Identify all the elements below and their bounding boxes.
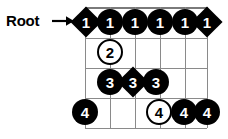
finger-marker-1: 1 [122,9,148,35]
fret-line-4 [85,128,207,129]
finger-marker-1: 1 [73,9,99,35]
finger-number: 3 [129,75,137,90]
finger-number: 1 [203,15,211,30]
finger-number: 1 [156,15,164,30]
finger-marker-1: 1 [97,9,123,35]
finger-marker-4: 4 [194,99,220,125]
finger-marker-4: 4 [146,99,172,125]
finger-number: 1 [131,15,139,30]
finger-number: 4 [203,105,211,120]
finger-number: 3 [106,75,114,90]
finger-number: 1 [181,15,189,30]
finger-number: 1 [106,15,114,30]
root-label: Root [6,13,39,28]
finger-marker-1: 1 [194,9,220,35]
finger-number: 2 [106,45,114,60]
finger-marker-4: 4 [72,99,98,125]
finger-number: 3 [152,75,160,90]
fretboard-diagram: Root 11111123334444 [0,0,228,139]
finger-number: 4 [155,105,163,120]
finger-marker-3: 3 [143,69,169,95]
finger-number: 4 [180,105,188,120]
finger-marker-2: 2 [97,39,123,65]
finger-marker-1: 1 [147,9,173,35]
finger-number: 1 [82,15,90,30]
finger-number: 4 [81,105,89,120]
